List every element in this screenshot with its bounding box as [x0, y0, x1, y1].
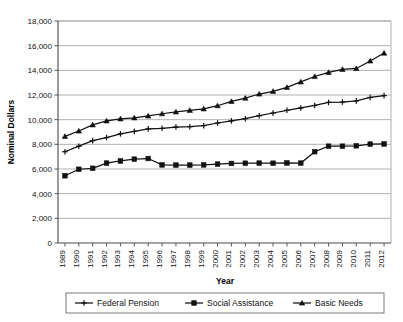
- data-point-cross: [312, 103, 318, 109]
- x-axis-tick-label: 2004: [266, 249, 275, 267]
- x-axis-title: Year: [216, 276, 235, 286]
- data-point-cross: [284, 107, 290, 113]
- data-point-square: [299, 161, 304, 166]
- x-axis-tick-label: 2009: [335, 249, 344, 267]
- data-point-cross: [90, 138, 96, 144]
- data-point-square: [90, 166, 95, 171]
- data-point-square: [229, 161, 234, 166]
- data-point-square: [285, 161, 290, 166]
- x-axis-tick-label: 2007: [308, 249, 317, 267]
- y-axis-tick-label: 4,000: [32, 190, 53, 199]
- data-point-cross: [201, 123, 207, 129]
- x-axis-tick-label: 1998: [183, 249, 192, 267]
- data-point-square: [382, 142, 387, 147]
- data-point-square: [215, 162, 220, 167]
- x-axis-tick-label: 1999: [197, 249, 206, 267]
- data-point-cross: [187, 124, 193, 130]
- y-axis-tick-label: 18,000: [28, 17, 53, 26]
- data-point-square: [118, 159, 123, 164]
- data-point-triangle: [367, 58, 372, 63]
- data-point-cross: [367, 95, 373, 101]
- x-axis-tick-label: 1995: [141, 249, 150, 267]
- y-axis-tick-label: 10,000: [28, 116, 53, 125]
- x-axis-tick-labels: 1989199019911992199319941995199619971998…: [58, 249, 386, 267]
- data-point-cross: [145, 126, 151, 132]
- y-axis-tick-label: 6,000: [32, 165, 53, 174]
- chart-figure: 02,0004,0006,0008,00010,00012,00014,0001…: [0, 0, 403, 322]
- data-point-cross: [298, 105, 304, 111]
- data-point-cross: [62, 149, 68, 155]
- data-point-cross: [132, 129, 138, 135]
- x-axis-tick-label: 1989: [58, 249, 67, 267]
- y-axis: [55, 21, 392, 243]
- data-point-square: [188, 163, 193, 168]
- y-axis-tick-label: 2,000: [32, 214, 53, 223]
- x-axis-tick-label: 1992: [100, 249, 109, 267]
- data-point-square: [174, 163, 179, 168]
- data-point-square: [104, 161, 109, 166]
- data-point-square: [192, 301, 197, 306]
- data-point-cross: [340, 99, 346, 105]
- y-axis-tick-label: 12,000: [28, 91, 53, 100]
- data-point-square: [354, 144, 359, 149]
- data-point-cross: [173, 124, 179, 130]
- y-axis-tick-label: 14,000: [28, 66, 53, 75]
- y-axis-tick-label: 0: [48, 239, 53, 248]
- x-axis-tick-label: 2010: [349, 249, 358, 267]
- data-point-square: [312, 149, 317, 154]
- chart-legend: Federal PensionSocial AssistanceBasic Ne…: [66, 293, 384, 313]
- data-point-cross: [229, 118, 235, 124]
- data-series: [62, 50, 387, 178]
- data-point-cross: [118, 131, 124, 137]
- x-axis-tick-label: 2005: [280, 249, 289, 267]
- series-line: [65, 144, 384, 176]
- series-federal-pension: [62, 93, 387, 155]
- y-axis-tick-labels: 02,0004,0006,0008,00010,00012,00014,0001…: [28, 17, 53, 248]
- data-point-square: [160, 163, 165, 168]
- data-point-cross: [243, 116, 249, 122]
- data-point-square: [340, 144, 345, 149]
- series-basic-needs: [62, 50, 387, 138]
- data-point-cross: [256, 113, 262, 119]
- x-axis: [58, 243, 391, 247]
- data-point-cross: [159, 126, 165, 132]
- data-point-square: [77, 167, 82, 172]
- data-point-cross: [104, 135, 110, 141]
- data-point-square: [326, 144, 331, 149]
- x-axis-tick-label: 2012: [377, 249, 386, 267]
- data-point-cross: [354, 98, 360, 104]
- series-social-assistance: [63, 142, 387, 178]
- x-axis-tick-label: 2008: [322, 249, 331, 267]
- x-axis-tick-label: 1993: [113, 249, 122, 267]
- grid-lines: [58, 21, 391, 218]
- x-axis-tick-label: 2006: [294, 249, 303, 267]
- data-point-square: [271, 161, 276, 166]
- data-point-cross: [326, 100, 332, 106]
- x-axis-tick-label: 2011: [363, 249, 372, 267]
- legend-label: Social Assistance: [207, 298, 273, 308]
- y-axis-tick-label: 16,000: [28, 42, 53, 51]
- data-point-cross: [270, 110, 276, 116]
- data-point-cross: [215, 120, 221, 126]
- y-axis-tick-label: 8,000: [32, 140, 53, 149]
- data-point-square: [368, 142, 373, 147]
- line-chart: 02,0004,0006,0008,00010,00012,00014,0001…: [0, 0, 403, 322]
- x-axis-tick-label: 1990: [72, 249, 81, 267]
- data-point-triangle: [381, 50, 386, 55]
- x-axis-tick-label: 1991: [86, 249, 95, 267]
- data-point-square: [146, 156, 151, 161]
- y-axis-title: Nominal Dollars: [6, 99, 16, 164]
- x-axis-tick-label: 2003: [252, 249, 261, 267]
- data-point-square: [201, 163, 206, 168]
- x-axis-tick-label: 2001: [224, 249, 233, 267]
- legend-label: Federal Pension: [97, 298, 159, 308]
- x-axis-tick-label: 1996: [155, 249, 164, 267]
- data-point-square: [132, 157, 137, 162]
- x-axis-tick-label: 2002: [238, 249, 247, 267]
- legend-label: Basic Needs: [315, 298, 363, 308]
- x-axis-tick-label: 1994: [127, 249, 136, 267]
- data-point-square: [243, 161, 248, 166]
- data-point-cross: [381, 93, 387, 99]
- x-axis-tick-label: 1997: [169, 249, 178, 267]
- x-axis-tick-label: 2000: [211, 249, 220, 267]
